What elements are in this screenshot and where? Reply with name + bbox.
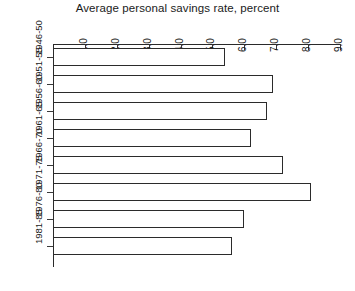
bar-1976-80 <box>53 210 244 228</box>
x-tick-label-9.0: 9.0 <box>333 38 344 52</box>
bar-chart: Average personal savings rate, percent 1… <box>0 0 355 291</box>
bar-1961-65 <box>53 129 251 147</box>
y-tick-label-1981-85: 1981-85 <box>33 209 44 244</box>
bar-1981-85 <box>53 237 232 255</box>
bar-1946-50 <box>53 48 225 66</box>
bar-1971-75 <box>53 183 311 201</box>
x-tick-label-7.0: 7.0 <box>269 38 280 52</box>
x-tick-label-8.0: 8.0 <box>301 38 312 52</box>
x-tick-label-6.0: 6.0 <box>237 38 248 52</box>
bar-1951-55 <box>53 75 273 93</box>
bar-1956-60 <box>53 102 267 120</box>
chart-title: Average personal savings rate, percent <box>0 2 355 14</box>
bar-1966-70 <box>53 156 283 174</box>
